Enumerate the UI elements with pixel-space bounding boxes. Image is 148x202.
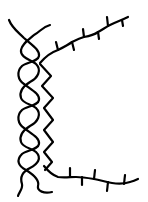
lower-tick <box>107 182 108 191</box>
diagram-canvas: Line drawing of a twisted double strand … <box>0 0 148 202</box>
upper-tick <box>98 32 99 39</box>
lower-tick <box>94 170 95 179</box>
upper-tick <box>56 42 58 50</box>
upper-chain <box>40 17 128 63</box>
upper-tick <box>107 17 108 26</box>
diagram-svg <box>0 0 148 202</box>
zigzag-strand <box>40 64 53 170</box>
upper-tick <box>72 42 74 50</box>
lower-chain <box>44 166 138 191</box>
upper-tick <box>83 29 84 37</box>
upper-chain-backbone <box>40 17 128 63</box>
lower-tick <box>124 175 125 184</box>
upper-tick <box>122 20 123 26</box>
